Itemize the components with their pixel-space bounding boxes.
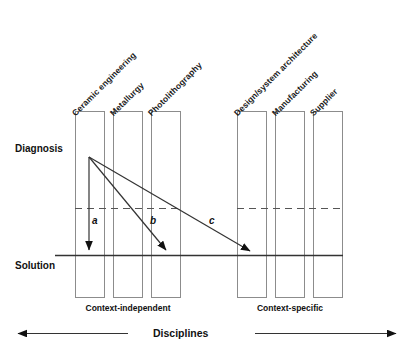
column-box-design-system-architecture (238, 112, 267, 298)
axis-label-solution: Solution (15, 260, 55, 271)
diagram-graphics (0, 0, 408, 352)
column-box-photolithography (152, 112, 181, 298)
column-box-supplier (314, 112, 343, 298)
arrow-letter-c: c (209, 215, 215, 226)
column-box-manufacturing (276, 112, 305, 298)
column-boxes-context-specific (238, 112, 343, 298)
axis-label-diagnosis: Diagnosis (15, 143, 63, 154)
group-label-context-independent: Context-independent (75, 303, 181, 313)
group-label-context-specific: Context-specific (237, 303, 343, 313)
column-box-ceramic-engineering (76, 112, 105, 298)
diagram-bottom-title: Disciplines (153, 327, 208, 339)
arrow-letter-a: a (92, 215, 98, 226)
diagram-canvas: Ceramic engineering Metallurgy Photolith… (0, 0, 408, 352)
arrow-letter-b: b (150, 215, 156, 226)
arrow-b (89, 157, 166, 250)
